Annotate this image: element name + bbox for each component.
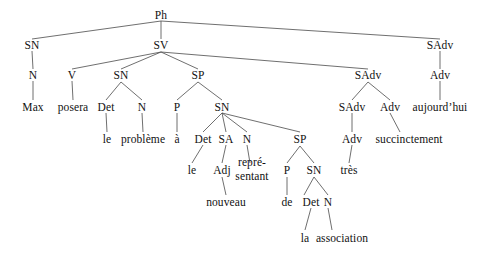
- node-n-probleme: N: [138, 101, 146, 113]
- node-adv-succinctement: Adv: [380, 101, 400, 113]
- node-sv: SV: [154, 39, 169, 51]
- tree-edge-layer: [0, 0, 488, 257]
- node-p-second: P: [284, 164, 291, 176]
- leaf-representant-line2: sentant: [235, 170, 268, 184]
- leaf-la: la: [301, 232, 310, 244]
- node-sa: SA: [219, 133, 234, 145]
- leaf-le-probleme: le: [103, 133, 112, 145]
- node-adj: Adj: [213, 164, 231, 176]
- node-sn-inner: SN: [215, 101, 230, 113]
- node-n-representant: N: [243, 133, 251, 145]
- node-n-association: N: [324, 196, 332, 208]
- node-det-second: Det: [195, 133, 212, 145]
- leaf-probleme: problème: [121, 133, 165, 145]
- leaf-a: à: [174, 133, 179, 145]
- leaf-tres: très: [340, 164, 357, 176]
- node-sp-first: SP: [192, 69, 205, 81]
- leaf-max: Max: [22, 101, 43, 113]
- node-ph: Ph: [155, 9, 167, 21]
- node-sn-deepest: SN: [307, 164, 322, 176]
- node-sadv-low: SAdv: [339, 101, 366, 113]
- node-sadv-mid: SAdv: [355, 69, 382, 81]
- leaf-association: association: [316, 232, 368, 244]
- leaf-posera: posera: [58, 101, 89, 113]
- syntactic-tree-figure: Ph SN SV SAdv N V SN SP SAdv Adv Max pos…: [0, 0, 488, 257]
- node-n-subject: N: [29, 69, 37, 81]
- leaf-succinctement: succinctement: [375, 133, 442, 145]
- leaf-de: de: [281, 196, 292, 208]
- leaf-representant-line1: repré-: [235, 156, 268, 170]
- node-adv-right: Adv: [430, 69, 450, 81]
- leaf-nouveau: nouveau: [206, 196, 246, 208]
- leaf-aujourdhui: aujourd’hui: [413, 101, 468, 113]
- node-p-first: P: [174, 101, 181, 113]
- node-sp-second: SP: [294, 133, 307, 145]
- node-sn-subject: SN: [25, 39, 40, 51]
- leaf-le-representant: le: [188, 164, 197, 176]
- node-det-third: Det: [303, 196, 320, 208]
- leaf-representant: repré- sentant: [235, 156, 268, 183]
- node-det-first: Det: [98, 101, 115, 113]
- node-sadv-top: SAdv: [427, 39, 454, 51]
- node-sn-object: SN: [114, 69, 129, 81]
- node-v: V: [68, 69, 76, 81]
- node-adv-tres: Adv: [342, 133, 362, 145]
